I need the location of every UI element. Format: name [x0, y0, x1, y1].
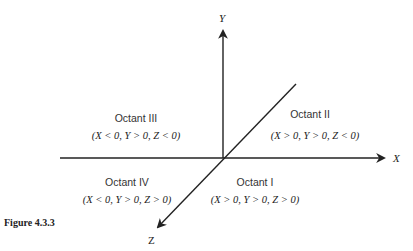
octant-ii-name: Octant II	[290, 108, 330, 120]
octant-i-name: Octant I	[237, 176, 274, 188]
octant-iii-condition: (X < 0, Y > 0, Z < 0)	[92, 130, 181, 142]
y-axis-label: Y	[219, 12, 227, 24]
figure-caption: Figure 4.3.3	[4, 217, 55, 228]
z-axis	[158, 84, 296, 227]
octant-ii-condition: (X > 0, Y > 0, Z < 0)	[271, 130, 360, 142]
x-axis-label: X	[392, 152, 401, 164]
octant-diagram: Y X Z Octant III (X < 0, Y > 0, Z < 0) O…	[0, 0, 413, 251]
octant-iv-condition: (X < 0, Y > 0, Z > 0)	[83, 194, 172, 206]
octant-i-condition: (X > 0, Y > 0, Z > 0)	[211, 194, 300, 206]
z-axis-label: Z	[148, 234, 155, 246]
octant-iii-name: Octant III	[115, 112, 158, 124]
octant-iv-name: Octant IV	[105, 176, 149, 188]
